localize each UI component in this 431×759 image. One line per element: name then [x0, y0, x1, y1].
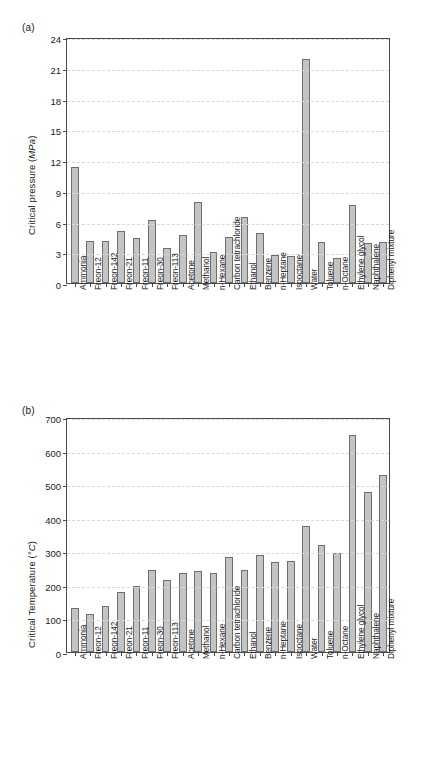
x-axis-tick: [322, 652, 323, 656]
y-axis-tick-label: 9: [56, 187, 61, 198]
y-axis-tick: [63, 131, 67, 132]
gridline: [67, 101, 389, 102]
y-axis-tick-label: 12: [50, 157, 61, 168]
x-axis-tick-label: Benzene: [263, 627, 273, 659]
x-axis-tick: [306, 283, 307, 287]
x-axis-tick: [121, 652, 122, 656]
x-axis-tick: [90, 652, 91, 656]
x-axis-tick-label: Ethylene glycol: [356, 605, 366, 659]
x-axis-tick: [352, 652, 353, 656]
x-axis-tick: [383, 652, 384, 656]
x-axis-tick: [167, 283, 168, 287]
x-axis-tick: [383, 283, 384, 287]
x-axis-tick-label: Acetone: [186, 260, 196, 290]
x-axis-tick: [106, 652, 107, 656]
gridline: [67, 162, 389, 163]
x-axis-tick-label: Naphthalene: [371, 244, 381, 290]
x-axis-tick-label: Ethanol: [248, 263, 258, 290]
x-axis-tick: [275, 283, 276, 287]
x-axis-tick-label: Toluene: [325, 262, 335, 290]
y-axis-tick: [63, 520, 67, 521]
x-axis-tick: [214, 283, 215, 287]
x-axis-tick: [121, 283, 122, 287]
x-axis-tick: [337, 283, 338, 287]
chart-panel-a: (a) Critical pressure (MPa) 036912151821…: [0, 0, 431, 390]
x-axis-tick-label: Freon-142: [109, 622, 119, 659]
x-axis-tick: [322, 283, 323, 287]
x-axis-tick: [136, 283, 137, 287]
x-axis-tick-label: n-Octane: [340, 626, 350, 659]
x-axis-tick: [152, 652, 153, 656]
chart-panel-b: (b) Critical Temperature (°C) 0100200300…: [0, 390, 431, 759]
x-axis-tick-label: Freon-21: [124, 257, 134, 290]
x-axis-tick: [275, 652, 276, 656]
bar: [302, 59, 310, 283]
y-axis-unit: MPa: [26, 139, 37, 159]
x-axis-tick: [244, 652, 245, 656]
y-axis-tick: [63, 254, 67, 255]
x-axis-tick: [106, 283, 107, 287]
x-axis-tick: [198, 652, 199, 656]
x-axis-tick: [260, 283, 261, 287]
panel-a-y-axis-title: Critical pressure (MPa): [26, 136, 37, 235]
x-axis-tick: [152, 283, 153, 287]
y-axis-tick: [63, 101, 67, 102]
y-axis-tick-label: 0: [56, 649, 61, 660]
gridline: [67, 224, 389, 225]
x-axis-tick: [260, 652, 261, 656]
panel-b-plot-area: 0100200300400500600700AmmoniaFreon-12Fre…: [66, 418, 390, 653]
x-axis-tick-label: Freon-30: [155, 626, 165, 659]
x-axis-tick-label: n-Hexane: [217, 624, 227, 659]
y-axis-tick: [63, 620, 67, 621]
gridline: [67, 453, 389, 454]
gridline: [67, 70, 389, 71]
x-axis-tick-label: Benzene: [263, 258, 273, 290]
x-axis-tick: [368, 283, 369, 287]
panel-a-bars: [67, 39, 389, 283]
y-axis-tick-label: 600: [45, 447, 61, 458]
x-axis-tick-label: Carbon tetrachloride: [232, 217, 242, 290]
y-axis-tick: [63, 224, 67, 225]
x-axis-tick: [214, 652, 215, 656]
y-axis-tick-label: 18: [50, 95, 61, 106]
y-axis-tick-label: 24: [50, 34, 61, 45]
y-axis-tick-label: 3: [56, 249, 61, 260]
x-axis-tick-label: Freon-21: [124, 626, 134, 659]
x-axis-tick-label: n-Heptane: [278, 252, 288, 290]
x-axis-tick-label: Freon-142: [109, 253, 119, 290]
x-axis-tick: [352, 283, 353, 287]
panel-b-bars: [67, 419, 389, 652]
gridline: [67, 419, 389, 420]
panel-a-label: (a): [22, 22, 35, 33]
x-axis-tick-label: n-Octane: [340, 257, 350, 290]
gridline: [67, 39, 389, 40]
y-axis-tick: [63, 654, 67, 655]
x-axis-tick: [368, 652, 369, 656]
x-axis-tick: [90, 283, 91, 287]
y-axis-tick-label: 6: [56, 218, 61, 229]
y-axis-tick-label: 21: [50, 64, 61, 75]
y-axis-tick: [63, 553, 67, 554]
y-axis-tick-label: 500: [45, 481, 61, 492]
x-axis-tick-label: Freon-12: [93, 626, 103, 659]
x-axis-tick: [198, 283, 199, 287]
x-axis-tick-label: Water: [309, 638, 319, 659]
x-axis-tick: [229, 652, 230, 656]
gridline: [67, 520, 389, 521]
x-axis-tick-label: Freon-12: [93, 257, 103, 290]
y-axis-tick-label: 0: [56, 280, 61, 291]
x-axis-tick-label: n-Hexane: [217, 255, 227, 290]
panel-b-label: (b): [22, 405, 35, 416]
x-axis-tick-label: Isooctane: [294, 255, 304, 290]
x-axis-tick-label: Ethanol: [248, 632, 258, 659]
y-axis-tick-label: 200: [45, 581, 61, 592]
x-axis-tick: [75, 652, 76, 656]
gridline: [67, 193, 389, 194]
x-axis-tick: [167, 652, 168, 656]
y-axis-tick: [63, 70, 67, 71]
x-axis-tick-label: n-Heptane: [278, 621, 288, 659]
x-axis-tick: [229, 283, 230, 287]
x-axis-tick-label: Toluene: [325, 631, 335, 659]
x-axis-tick: [306, 652, 307, 656]
x-axis-tick: [136, 652, 137, 656]
